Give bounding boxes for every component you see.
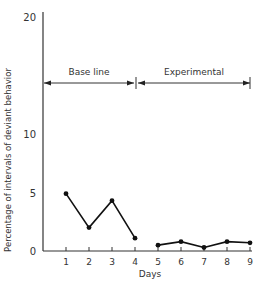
y-tick-label: 0 <box>30 246 36 257</box>
x-tick-label: 9 <box>247 257 253 267</box>
axes <box>43 12 252 251</box>
x-tick-label: 4 <box>132 257 138 267</box>
data-point <box>179 239 184 244</box>
x-tick-label: 8 <box>224 257 230 267</box>
data-series <box>64 191 253 250</box>
x-tick-label: 2 <box>86 257 92 267</box>
x-tick-label: 6 <box>178 257 184 267</box>
x-tick-label: 7 <box>201 257 207 267</box>
arrowhead-icon <box>127 81 134 86</box>
arrowhead-icon <box>44 81 51 86</box>
y-tick-label: 20 <box>23 12 36 23</box>
arrowhead-icon <box>243 81 250 86</box>
data-point <box>202 245 207 250</box>
x-axis-label: Days <box>139 269 162 279</box>
x-tick-label: 5 <box>155 257 161 267</box>
phase-label: Experimental <box>164 67 224 77</box>
phase-label: Base line <box>68 67 109 77</box>
x-tick-label: 1 <box>63 257 69 267</box>
data-point <box>133 236 138 241</box>
data-point <box>64 191 69 196</box>
phase-brackets: Base lineExperimental <box>44 67 250 89</box>
data-point <box>110 198 115 203</box>
x-tick-labels: 123456789 <box>63 247 253 267</box>
y-tick-label: 10 <box>23 129 36 140</box>
data-point <box>248 240 253 245</box>
y-tick-label: 5 <box>30 188 36 199</box>
series-line <box>66 194 135 238</box>
y-tick-labels: 051020 <box>23 12 36 257</box>
y-axis-label: Percentage of intervals of deviant behav… <box>3 68 13 252</box>
data-point <box>87 225 92 230</box>
data-point <box>156 243 161 248</box>
arrowhead-icon <box>138 81 145 86</box>
data-point <box>225 239 230 244</box>
x-tick-label: 3 <box>109 257 115 267</box>
line-chart: 051020 123456789 Base lineExperimental D… <box>0 0 257 285</box>
